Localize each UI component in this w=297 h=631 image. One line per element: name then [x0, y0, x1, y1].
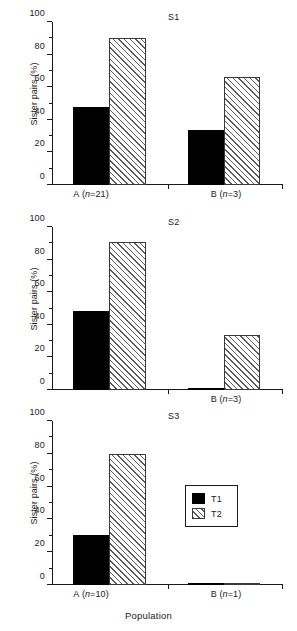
bar-s2-A-T2: [109, 242, 146, 390]
y-ticklabel-80-s3: 80: [35, 440, 45, 449]
y-tick-20-s3: [47, 551, 52, 552]
x-axis-center-tick-s2: [168, 390, 169, 394]
bar-s1-A-T1: [73, 107, 109, 185]
y-tick-100-s3: [47, 420, 52, 421]
y-ticklabel-100-s3: 100: [29, 408, 45, 417]
y-ticklabel-100-s1: 100: [29, 9, 45, 18]
y-tick-90-s1: [49, 37, 52, 38]
x-axis-label-s2-B: B (n=3): [211, 394, 242, 404]
y-tick-60-s1: [47, 86, 52, 87]
panel-title-s1: S1: [168, 12, 180, 22]
y-ticklabel-60-s1: 60: [35, 74, 45, 83]
y-tick-80-s3: [47, 453, 52, 454]
panel-s3: Sister pairs (%) S3 100 80 60 40 20 0: [0, 405, 297, 631]
y-tick-50-s3: [49, 502, 52, 503]
y-tick-10-s1: [49, 168, 52, 169]
n-value-s2-B: 3: [233, 394, 238, 404]
legend-item-t1: T1: [192, 491, 230, 506]
legend-label-t2: T2: [211, 509, 222, 519]
x-axis-title: Population: [0, 610, 297, 621]
plot-area-s2: 100 80 60 40 20 0: [52, 227, 283, 390]
y-ticklabel-60-s3: 60: [35, 473, 45, 482]
bar-s1-B-T2: [224, 77, 260, 185]
n-value-s3-B: 1: [233, 589, 238, 599]
panel-title-s3: S3: [168, 411, 180, 421]
y-ticklabel-0-s2: 0: [40, 377, 45, 386]
figure-sister-pairs: Sister pairs (%) S1 100 80 60 40 20 0: [0, 0, 297, 631]
y-tick-90-s3: [49, 436, 52, 437]
y-tick-70-s2: [49, 275, 52, 276]
y-axis-line-s2: [52, 227, 53, 390]
y-ticklabel-40-s2: 40: [35, 311, 45, 320]
y-tick-70-s1: [49, 70, 52, 71]
y-tick-40-s2: [47, 324, 52, 325]
y-axis-line-s3: [52, 421, 53, 585]
y-tick-40-s1: [47, 119, 52, 120]
y-tick-80-s1: [47, 54, 52, 55]
y-tick-30-s2: [49, 340, 52, 341]
y-tick-50-s2: [49, 308, 52, 309]
y-ticklabel-0-s3: 0: [40, 572, 45, 581]
x-axis-label-s1-B: B (n=3): [211, 189, 242, 199]
y-tick-10-s3: [49, 568, 52, 569]
x-axis-endcap-s2: [282, 389, 283, 394]
y-axis-line-s1: [52, 22, 53, 185]
n-value-s1-B: 3: [233, 189, 238, 199]
y-tick-90-s2: [49, 242, 52, 243]
y-ticklabel-20-s2: 20: [35, 344, 45, 353]
plot-area-s1: 100 80 60 40 20 0: [52, 22, 283, 185]
bar-s3-A-T2: [109, 454, 146, 585]
y-tick-20-s1: [47, 151, 52, 152]
y-tick-100-s1: [47, 21, 52, 22]
y-ticklabel-0-s1: 0: [40, 172, 45, 181]
x-axis-label-s1-A: A (n=21): [73, 189, 109, 199]
y-ticklabel-100-s2: 100: [29, 214, 45, 223]
y-tick-70-s3: [49, 469, 52, 470]
bar-s1-B-T1: [188, 130, 224, 185]
bar-s3-B-T1: [188, 583, 224, 585]
y-axis-label-s3: Sister pairs (%): [29, 461, 39, 524]
legend-swatch-t2-icon: [192, 508, 205, 519]
y-tick-30-s3: [49, 535, 52, 536]
y-ticklabel-80-s1: 80: [35, 41, 45, 50]
y-tick-40-s3: [47, 518, 52, 519]
y-tick-10-s2: [49, 373, 52, 374]
y-tick-30-s1: [49, 135, 52, 136]
panel-s1: Sister pairs (%) S1 100 80 60 40 20 0: [0, 0, 297, 210]
y-ticklabel-20-s3: 20: [35, 539, 45, 548]
legend-label-t1: T1: [211, 494, 222, 504]
legend: T1 T2: [185, 485, 238, 527]
y-tick-60-s2: [47, 291, 52, 292]
x-axis-label-s3-B: B (n=1): [211, 589, 242, 599]
bar-s2-B-T2: [224, 335, 260, 390]
panel-title-s2: S2: [168, 217, 180, 227]
bar-s3-A-T1: [73, 535, 109, 585]
bar-s3-B-T2: [224, 583, 260, 585]
y-tick-80-s2: [47, 259, 52, 260]
y-tick-0-s1: [47, 184, 52, 185]
y-tick-20-s2: [47, 356, 52, 357]
x-axis-center-tick-s1: [168, 185, 169, 189]
y-ticklabel-60-s2: 60: [35, 279, 45, 288]
bar-s2-B-T1: [188, 388, 224, 390]
y-ticklabel-40-s1: 40: [35, 106, 45, 115]
x-axis-endcap-s1: [282, 184, 283, 189]
bar-s1-A-T2: [109, 38, 146, 186]
panel-s2: Sister pairs (%) S2 100 80 60 40 20 0: [0, 205, 297, 410]
n-value-s1-A: 21: [95, 189, 105, 199]
n-value-s3-A: 10: [95, 589, 105, 599]
bar-s2-A-T1: [73, 311, 109, 390]
y-ticklabel-40-s3: 40: [35, 506, 45, 515]
x-axis-endcap-s3: [282, 584, 283, 589]
y-ticklabel-80-s2: 80: [35, 246, 45, 255]
y-tick-100-s2: [47, 226, 52, 227]
y-tick-60-s3: [47, 486, 52, 487]
x-axis-label-s3-A: A (n=10): [73, 589, 109, 599]
y-tick-0-s3: [47, 584, 52, 585]
legend-item-t2: T2: [192, 506, 230, 521]
plot-area-s3: 100 80 60 40 20 0 T1: [52, 421, 283, 585]
legend-swatch-t1-icon: [192, 493, 205, 504]
y-ticklabel-20-s1: 20: [35, 139, 45, 148]
y-tick-0-s2: [47, 389, 52, 390]
x-axis-center-tick-s3: [168, 585, 169, 589]
